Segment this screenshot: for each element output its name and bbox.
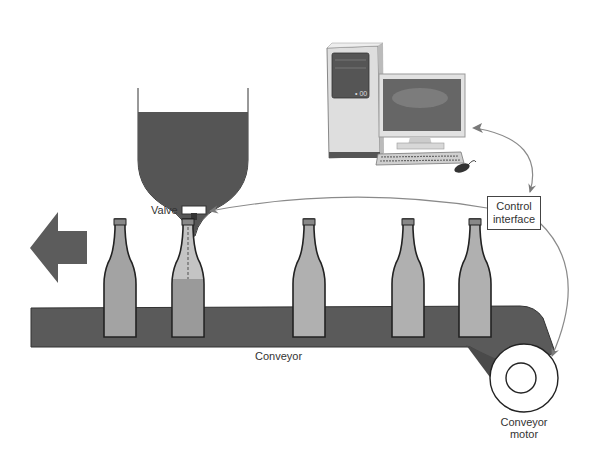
valve-label: Valve — [151, 204, 178, 216]
bottle-5 — [459, 219, 491, 337]
conveyor-motor — [490, 344, 558, 412]
control-interface-label-line1: Control — [488, 200, 540, 213]
computer-keyboard — [376, 152, 464, 165]
valve — [182, 206, 206, 214]
control-interface-box: Control interface — [487, 196, 541, 230]
conveyor-motor-label-line2: motor — [496, 428, 552, 440]
bottling-diagram: • 00 — [0, 0, 607, 463]
bottle-1 — [104, 219, 136, 337]
direction-arrow-icon — [30, 212, 87, 283]
conveyor-label: Conveyor — [255, 350, 302, 362]
control-interface-label-line2: interface — [488, 213, 540, 226]
computer: • 00 — [327, 43, 476, 174]
bottle-4 — [392, 219, 424, 337]
bottle-2-filling — [172, 219, 204, 337]
conveyor-motor-label: Conveyor motor — [496, 416, 552, 440]
svg-text:• 00: • 00 — [355, 90, 367, 97]
conveyor-motor-label-line1: Conveyor — [496, 416, 552, 428]
bottle-3 — [293, 219, 325, 337]
